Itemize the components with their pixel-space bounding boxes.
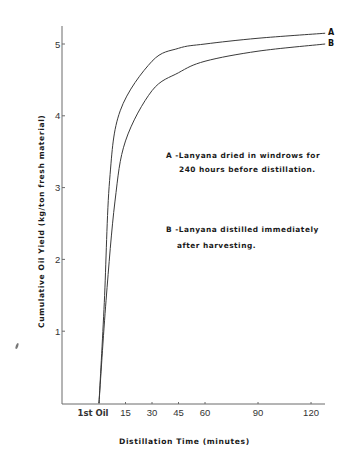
curve-a-label: A [328,28,335,37]
x-tick-label: 120 [303,407,319,418]
x-tick-label: 90 [253,407,264,418]
legend-b-line1: B -Lanyana distilled immediately [166,225,319,234]
x-tick-label: 60 [200,407,211,418]
x-tick-label: 45 [173,407,184,418]
legend-a-line1: A -Lanyana dried in windrows for [166,151,320,160]
curve-b [99,44,325,403]
y-tick-label: 4 [55,110,60,121]
y-axis-title: Cumulative Oil Yield (kg/ton fresh mater… [37,115,46,328]
curve-a [99,33,325,403]
x-tick-label: 15 [120,407,131,418]
legend-b-line2: after harvesting. [177,241,256,250]
curve-b-label: B [328,39,334,48]
y-ticks: 12345 [55,39,65,337]
y-tick-label: 1 [55,326,60,337]
x-tick-label: 30 [147,407,158,418]
oil-yield-chart: 12345 1st Oil1530456090120 A B A -Lanyan… [0,0,349,456]
legend-a-line2: 240 hours before distillation. [179,165,316,174]
y-tick-label: 5 [55,39,60,50]
y-tick-label: 2 [55,254,60,265]
x-axis-title: Distillation Time (minutes) [119,437,250,446]
x-tick-label: 1st Oil [77,408,108,418]
scan-artifact-mark [15,343,19,350]
y-tick-label: 3 [55,182,60,193]
